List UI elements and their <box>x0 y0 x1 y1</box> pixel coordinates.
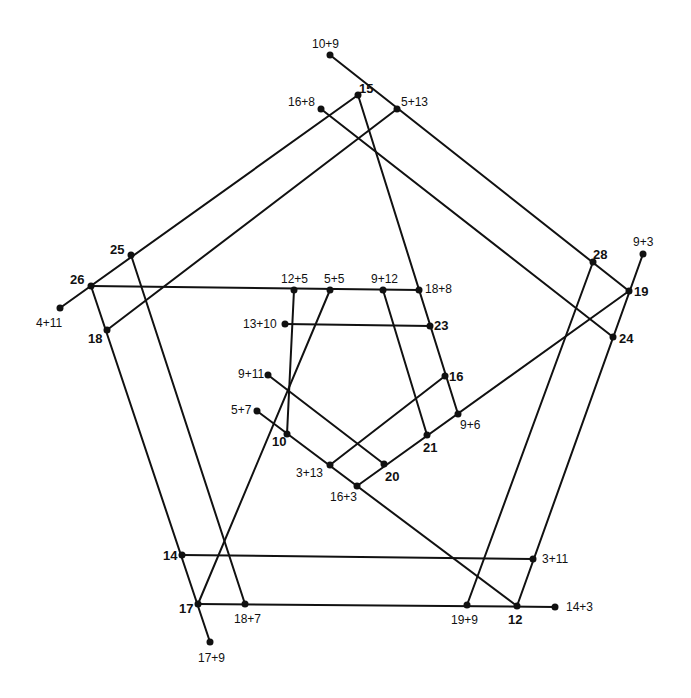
point-dot <box>327 287 334 294</box>
point-dot <box>254 408 261 415</box>
connecting-line <box>107 109 397 330</box>
connecting-line <box>287 290 294 434</box>
connecting-line <box>198 604 555 607</box>
point-label: 16+3 <box>330 491 357 503</box>
point-dot <box>282 321 289 328</box>
point-label: 16 <box>449 370 463 383</box>
point-dot <box>354 483 361 490</box>
point-label: 9+11 <box>238 368 264 380</box>
connecting-line <box>268 375 384 464</box>
point-dot <box>464 602 471 609</box>
point-dot <box>380 287 387 294</box>
point-label: 25 <box>110 243 124 256</box>
point-label: 3+13 <box>296 467 323 479</box>
connecting-line <box>383 290 427 435</box>
point-label: 10+9 <box>312 38 339 50</box>
connecting-line <box>467 262 593 605</box>
connecting-line <box>91 286 419 290</box>
point-label: 26 <box>70 273 84 286</box>
point-label: 9+12 <box>371 273 398 285</box>
point-dot <box>610 334 617 341</box>
connecting-line <box>321 109 613 337</box>
point-dot <box>640 251 647 258</box>
point-dot <box>195 601 202 608</box>
point-dot <box>207 639 214 646</box>
point-dot <box>424 432 431 439</box>
point-dot <box>552 604 559 611</box>
point-dot <box>327 462 334 469</box>
connecting-line <box>517 254 643 606</box>
point-label: 10 <box>272 435 286 448</box>
point-label: 28 <box>593 248 607 261</box>
point-dot <box>291 287 298 294</box>
point-label: 17 <box>179 602 193 615</box>
point-dot <box>427 323 434 330</box>
point-dot <box>394 106 401 113</box>
point-label: 18+7 <box>234 613 261 625</box>
point-dot <box>416 287 423 294</box>
point-label: 24 <box>619 332 633 345</box>
point-dot <box>381 461 388 468</box>
point-dot <box>530 556 537 563</box>
point-label: 9+6 <box>460 419 480 431</box>
point-label: 12 <box>508 613 522 626</box>
connecting-line <box>257 411 517 606</box>
point-label: 15 <box>359 82 373 95</box>
point-label: 5+5 <box>324 273 344 285</box>
point-label: 18 <box>88 332 102 345</box>
point-label: 16+8 <box>288 96 315 108</box>
connecting-line <box>330 55 629 291</box>
dot-to-dot-diagram: 10+91516+85+1325264+111812+55+59+1218+81… <box>0 0 691 698</box>
point-dot <box>179 552 186 559</box>
point-label: 23 <box>434 319 448 332</box>
point-label: 9+3 <box>633 236 653 248</box>
point-label: 3+11 <box>542 553 568 565</box>
point-label: 13+10 <box>243 318 277 330</box>
connecting-line <box>285 324 430 326</box>
point-dot <box>318 106 325 113</box>
point-label: 14+3 <box>566 601 593 613</box>
point-label: 12+5 <box>281 273 308 285</box>
connecting-line <box>358 95 458 414</box>
point-dot <box>265 372 272 379</box>
point-label: 5+7 <box>231 404 251 416</box>
point-dot <box>442 373 449 380</box>
point-dot <box>626 288 633 295</box>
point-dot <box>128 252 135 259</box>
point-dot <box>57 305 64 312</box>
point-dot <box>88 283 95 290</box>
connecting-line <box>182 555 533 559</box>
point-label: 19+9 <box>451 614 478 626</box>
point-dot <box>327 52 334 59</box>
point-label: 17+9 <box>198 652 225 664</box>
point-label: 19 <box>634 285 648 298</box>
connecting-line <box>131 255 245 604</box>
connecting-lines <box>0 0 691 698</box>
point-dot <box>514 603 521 610</box>
point-label: 20 <box>385 470 399 483</box>
point-dot <box>455 411 462 418</box>
connecting-line <box>357 291 629 486</box>
point-label: 5+13 <box>401 96 428 108</box>
point-dot <box>104 327 111 334</box>
connecting-line <box>60 95 358 308</box>
point-label: 14 <box>163 549 177 562</box>
point-dot <box>242 601 249 608</box>
connecting-line <box>91 286 210 642</box>
point-label: 18+8 <box>425 283 452 295</box>
point-label: 21 <box>423 441 437 454</box>
point-label: 4+11 <box>36 317 62 329</box>
